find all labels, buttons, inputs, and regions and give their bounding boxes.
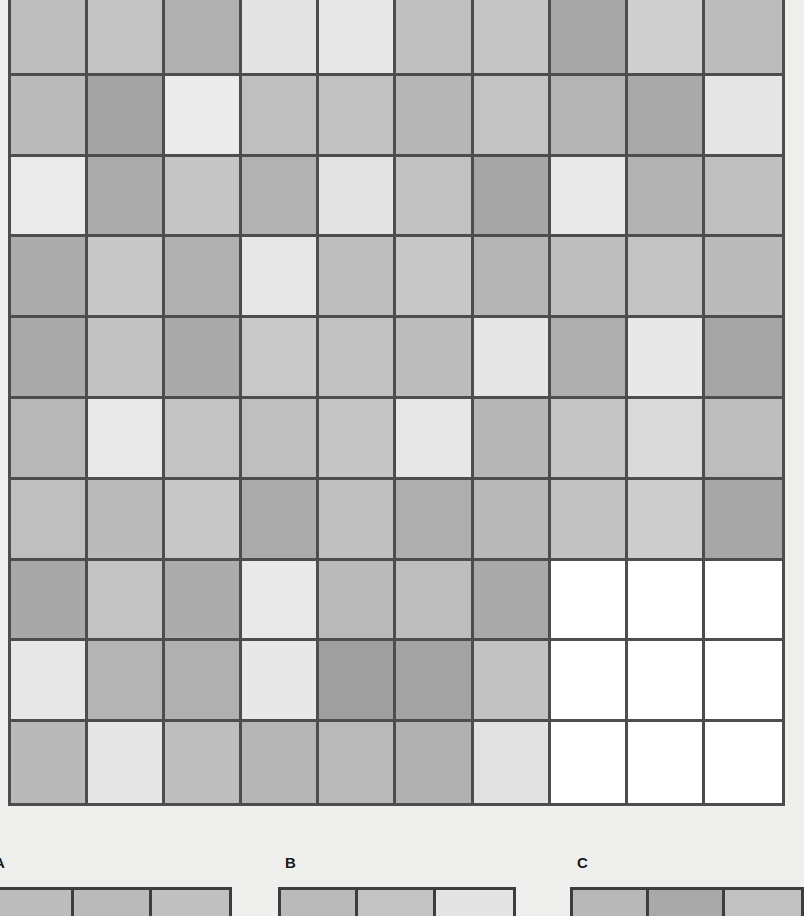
grid-cell-r5-c8 xyxy=(551,318,628,399)
grid-cell-r9-c1 xyxy=(11,641,88,722)
grid-cell-r2-c10 xyxy=(705,76,782,157)
grid-cell-r1-c7 xyxy=(474,0,551,76)
grid-cell-r2-c1 xyxy=(11,76,88,157)
grid-cell-r5-c5 xyxy=(319,318,396,399)
grid-cell-r4-c3 xyxy=(165,237,242,318)
grid-cell-r2-c3 xyxy=(165,76,242,157)
grid-cell-r5-c3 xyxy=(165,318,242,399)
grid-cell-r2-c7 xyxy=(474,76,551,157)
grid-cell-r6-c7 xyxy=(474,399,551,480)
grid-cell-r1-c8 xyxy=(551,0,628,76)
grid-cell-r2-c8 xyxy=(551,76,628,157)
grid-cell-r7-c6 xyxy=(396,480,473,561)
grid-cell-r3-c4 xyxy=(242,157,319,238)
grid-cell-r9-c8 xyxy=(551,641,628,722)
grid-cell-r8-c8 xyxy=(551,561,628,642)
panel-b-grid xyxy=(278,887,516,916)
panel-c: C xyxy=(570,855,804,916)
grid-cell-r6-c9 xyxy=(628,399,705,480)
grid-cell-r4-c2 xyxy=(88,237,165,318)
grid-cell-r7-c4 xyxy=(242,480,319,561)
grid-cell-r9-c10 xyxy=(705,641,782,722)
grid-cell-r3-c2 xyxy=(88,157,165,238)
grid-cell-r7-c10 xyxy=(705,480,782,561)
grid-cell-r7-c1 xyxy=(11,480,88,561)
panel-b-label: B xyxy=(278,855,516,870)
grid-cell-r8-c5 xyxy=(319,561,396,642)
grid-cell-r1-c6 xyxy=(396,0,473,76)
grid-cell-r1-c2 xyxy=(88,0,165,76)
grid-cell-r5-c10 xyxy=(705,318,782,399)
grid-cell-r7-c3 xyxy=(165,480,242,561)
grid-cell-r9-c9 xyxy=(628,641,705,722)
grid-cell-r2-c5 xyxy=(319,76,396,157)
grid-cell-r7-c2 xyxy=(88,480,165,561)
grid-cell-r3-c10 xyxy=(705,157,782,238)
grid-cell-r10-c9 xyxy=(628,722,705,803)
grid-cell-r6-c10 xyxy=(705,399,782,480)
grid-cell-r6-c8 xyxy=(551,399,628,480)
grid-cell-r5-c1 xyxy=(11,318,88,399)
grid-cell-r7-c7 xyxy=(474,480,551,561)
grid-cell-r5-c7 xyxy=(474,318,551,399)
grid-cell-r2-c4 xyxy=(242,76,319,157)
grid-cell-r4-c4 xyxy=(242,237,319,318)
panel-a-cell-2 xyxy=(74,890,151,916)
grid-cell-r10-c3 xyxy=(165,722,242,803)
grid-cell-r8-c2 xyxy=(88,561,165,642)
grid-cell-r10-c6 xyxy=(396,722,473,803)
grid-cell-r3-c6 xyxy=(396,157,473,238)
panel-a-cell-1 xyxy=(0,890,74,916)
grid-cell-r4-c6 xyxy=(396,237,473,318)
grid-cell-r8-c6 xyxy=(396,561,473,642)
grid-cell-r3-c7 xyxy=(474,157,551,238)
grid-cell-r6-c4 xyxy=(242,399,319,480)
grayscale-patch-grid xyxy=(8,0,785,806)
grid-cell-r1-c1 xyxy=(11,0,88,76)
panel-a-grid xyxy=(0,887,232,916)
grid-cell-r7-c8 xyxy=(551,480,628,561)
grid-cell-r4-c1 xyxy=(11,237,88,318)
grid-cell-r1-c4 xyxy=(242,0,319,76)
grid-cell-r5-c9 xyxy=(628,318,705,399)
grid-cell-r8-c10 xyxy=(705,561,782,642)
grid-cell-r5-c6 xyxy=(396,318,473,399)
main-grid-container xyxy=(8,0,785,806)
grid-cell-r6-c5 xyxy=(319,399,396,480)
panel-c-label: C xyxy=(570,855,804,870)
grid-cell-r4-c5 xyxy=(319,237,396,318)
panel-a-label: A xyxy=(0,855,232,870)
grid-cell-r1-c10 xyxy=(705,0,782,76)
grid-cell-r8-c4 xyxy=(242,561,319,642)
grid-cell-r7-c5 xyxy=(319,480,396,561)
grid-cell-r8-c3 xyxy=(165,561,242,642)
grid-cell-r2-c9 xyxy=(628,76,705,157)
panel-b-cell-1 xyxy=(281,890,358,916)
grid-cell-r1-c9 xyxy=(628,0,705,76)
panel-c-cell-2 xyxy=(649,890,725,916)
grid-cell-r10-c4 xyxy=(242,722,319,803)
grid-cell-r10-c7 xyxy=(474,722,551,803)
panel-c-cell-3 xyxy=(725,890,801,916)
grid-cell-r8-c9 xyxy=(628,561,705,642)
grid-cell-r1-c3 xyxy=(165,0,242,76)
grid-cell-r9-c4 xyxy=(242,641,319,722)
grid-cell-r6-c2 xyxy=(88,399,165,480)
grid-cell-r3-c8 xyxy=(551,157,628,238)
grid-cell-r3-c3 xyxy=(165,157,242,238)
grid-cell-r4-c7 xyxy=(474,237,551,318)
grid-cell-r10-c1 xyxy=(11,722,88,803)
grid-cell-r5-c4 xyxy=(242,318,319,399)
grid-cell-r10-c8 xyxy=(551,722,628,803)
grid-cell-r2-c6 xyxy=(396,76,473,157)
grid-cell-r9-c7 xyxy=(474,641,551,722)
grid-cell-r9-c3 xyxy=(165,641,242,722)
panel-a: A xyxy=(0,855,232,916)
grid-cell-r8-c1 xyxy=(11,561,88,642)
grid-cell-r6-c3 xyxy=(165,399,242,480)
grid-cell-r6-c6 xyxy=(396,399,473,480)
panel-c-cell-1 xyxy=(573,890,649,916)
grid-cell-r4-c10 xyxy=(705,237,782,318)
grid-cell-r4-c9 xyxy=(628,237,705,318)
grid-cell-r7-c9 xyxy=(628,480,705,561)
